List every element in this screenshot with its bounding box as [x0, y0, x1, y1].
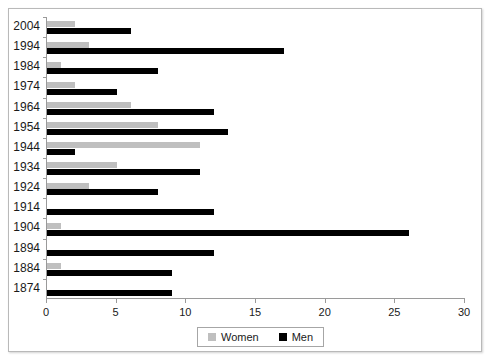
y-axis-category-label: 1944	[0, 140, 40, 154]
bar-men	[47, 250, 214, 256]
y-axis-category-label: 2004	[0, 19, 40, 33]
bar-men	[47, 89, 117, 95]
bar-row: 2004	[47, 17, 464, 37]
bar-row: 1984	[47, 57, 464, 77]
x-axis-tick	[464, 298, 465, 303]
x-axis-tick-label: 25	[374, 306, 414, 318]
bar-row: 1914	[47, 198, 464, 218]
y-axis-tick	[43, 259, 47, 260]
y-axis-tick	[43, 118, 47, 119]
bar-women	[47, 122, 158, 128]
bar-row: 1924	[47, 178, 464, 198]
y-axis-tick	[43, 178, 47, 179]
y-axis-tick	[43, 218, 47, 219]
bar-men	[47, 290, 172, 296]
y-axis-category-label: 1984	[0, 59, 40, 73]
chart-legend: WomenMen	[197, 327, 324, 347]
y-axis-tick	[43, 279, 47, 280]
x-axis-tick-label: 20	[305, 306, 345, 318]
y-axis-category-label: 1874	[0, 281, 40, 295]
y-axis-tick	[43, 158, 47, 159]
bar-row: 1964	[47, 98, 464, 118]
bar-women	[47, 21, 75, 27]
x-axis-tick-label: 15	[235, 306, 275, 318]
y-axis-tick	[43, 57, 47, 58]
bar-men	[47, 270, 172, 276]
y-axis-category-label: 1884	[0, 261, 40, 275]
bar-men	[47, 149, 75, 155]
bar-men	[47, 230, 409, 236]
y-axis-category-label: 1954	[0, 120, 40, 134]
bar-men	[47, 68, 158, 74]
y-axis-category-label: 1974	[0, 79, 40, 93]
y-axis-category-label: 1894	[0, 241, 40, 255]
y-axis-category-label: 1964	[0, 100, 40, 114]
plot-area: 051015202530 200419941984197419641954194…	[46, 17, 464, 299]
women-swatch	[208, 333, 216, 341]
bar-women	[47, 183, 89, 189]
y-axis-tick	[43, 17, 47, 18]
bar-row: 1944	[47, 138, 464, 158]
x-axis-tick-label: 30	[444, 306, 484, 318]
y-axis-category-label: 1994	[0, 39, 40, 53]
y-axis-tick	[43, 198, 47, 199]
bar-row: 1904	[47, 218, 464, 238]
bar-men	[47, 129, 228, 135]
y-axis-tick	[43, 239, 47, 240]
y-axis-category-label: 1934	[0, 160, 40, 174]
bar-women	[47, 223, 61, 229]
bar-women	[47, 42, 89, 48]
legend-label: Women	[221, 331, 259, 343]
bar-row: 1994	[47, 37, 464, 57]
y-axis-category-label: 1924	[0, 180, 40, 194]
bar-women	[47, 62, 61, 68]
bar-women	[47, 162, 117, 168]
bar-row: 1974	[47, 77, 464, 97]
y-axis-tick	[43, 98, 47, 99]
x-axis-tick-label: 0	[26, 306, 66, 318]
legend-entry: Men	[279, 331, 313, 343]
legend-label: Men	[292, 331, 313, 343]
bar-women	[47, 102, 131, 108]
x-axis-tick-label: 10	[165, 306, 205, 318]
chart-frame: 051015202530 200419941984197419641954194…	[8, 8, 482, 352]
bar-women	[47, 82, 75, 88]
y-axis-category-label: 1914	[0, 200, 40, 214]
bar-row: 1884	[47, 259, 464, 279]
x-axis-tick-label: 5	[96, 306, 136, 318]
bar-women	[47, 142, 200, 148]
men-swatch	[279, 333, 287, 341]
bar-men	[47, 169, 200, 175]
bar-row: 1894	[47, 239, 464, 259]
y-axis-category-label: 1904	[0, 220, 40, 234]
bar-men	[47, 109, 214, 115]
legend-entry: Women	[208, 331, 259, 343]
bar-men	[47, 209, 214, 215]
bar-row: 1934	[47, 158, 464, 178]
y-axis-tick	[43, 37, 47, 38]
bar-row: 1874	[47, 279, 464, 299]
bar-men	[47, 48, 284, 54]
bar-women	[47, 263, 61, 269]
y-axis-tick	[43, 77, 47, 78]
y-axis-tick	[43, 138, 47, 139]
bar-men	[47, 189, 158, 195]
bar-men	[47, 28, 131, 34]
bar-row: 1954	[47, 118, 464, 138]
